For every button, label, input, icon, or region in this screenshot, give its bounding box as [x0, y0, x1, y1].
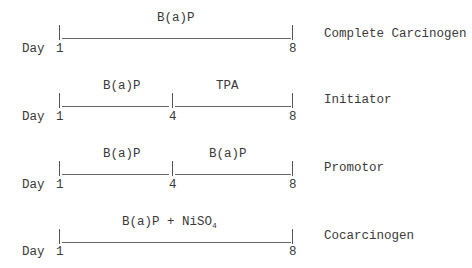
tick-end: [292, 93, 293, 108]
tick-mid: [172, 93, 173, 108]
day-start: 1: [56, 245, 64, 259]
tick-start: [59, 93, 60, 108]
segment-label: B(a)P + NiSO4: [122, 215, 217, 233]
timeline-segment: [62, 106, 169, 107]
protocol-row-initiator: B(a)P TPA Day 1 4 8 Initiator: [0, 70, 472, 130]
tick-start: [59, 161, 60, 176]
tick-start: [59, 229, 60, 244]
segment-label-subscript: 4: [212, 221, 217, 230]
protocol-row-complete-carcinogen: B(a)P Day 1 8 Complete Carcinogen: [0, 0, 472, 60]
tick-start: [59, 25, 60, 40]
day-label: Day: [22, 178, 45, 192]
tick-end: [292, 161, 293, 176]
day-label: Day: [22, 245, 45, 259]
tick-end: [292, 229, 293, 244]
segment-label: B(a)P: [209, 147, 247, 161]
day-end: 8: [289, 42, 297, 56]
segment-label: TPA: [216, 79, 239, 93]
category-label: Initiator: [324, 93, 392, 107]
timeline-segment: [62, 174, 169, 175]
day-label: Day: [22, 110, 45, 124]
category-label: Cocarcinogen: [324, 229, 414, 243]
day-start: 1: [56, 42, 64, 56]
segment-label: B(a)P: [157, 11, 195, 25]
category-label: Complete Carcinogen: [324, 27, 467, 41]
day-end: 8: [289, 178, 297, 192]
tick-end: [292, 25, 293, 40]
day-end: 8: [289, 245, 297, 259]
day-end: 8: [289, 110, 297, 124]
tick-mid: [172, 161, 173, 176]
segment-label: B(a)P: [103, 147, 141, 161]
day-label: Day: [22, 42, 45, 56]
timeline-segment: [62, 38, 291, 39]
timeline-segment: [175, 174, 291, 175]
timeline-segment: [175, 106, 291, 107]
day-start: 1: [56, 110, 64, 124]
day-mid: 4: [169, 110, 177, 124]
day-mid: 4: [169, 178, 177, 192]
segment-label: B(a)P: [103, 79, 141, 93]
protocol-row-cocarcinogen: B(a)P + NiSO4 Day 1 8 Cocarcinogen: [0, 200, 472, 260]
segment-label-main: B(a)P + NiSO: [122, 215, 212, 229]
timeline-segment: [62, 242, 291, 243]
protocol-row-promotor: B(a)P B(a)P Day 1 4 8 Promotor: [0, 135, 472, 195]
category-label: Promotor: [324, 161, 384, 175]
day-start: 1: [56, 178, 64, 192]
